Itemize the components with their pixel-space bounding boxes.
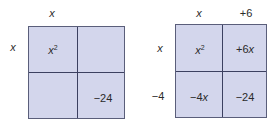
right-cell-top-left: x2 xyxy=(195,42,204,56)
left-cell-bottom-right: −24 xyxy=(94,92,113,104)
right-grid-horizontal-divider xyxy=(176,71,266,72)
left-top-label-x: x xyxy=(49,7,55,19)
right-cell-top-right-coef: +6 xyxy=(236,43,249,55)
right-cell-top-right: +6x xyxy=(236,43,254,55)
right-side-label-x: x xyxy=(157,42,163,54)
right-side-label-minus-4: −4 xyxy=(152,90,165,102)
right-cell-bottom-left-var: x xyxy=(203,91,209,103)
left-cell-top-left: x2 xyxy=(48,42,57,56)
left-grid-horizontal-divider xyxy=(29,72,124,73)
right-top-label-plus-6: +6 xyxy=(240,7,253,19)
right-area-grid: x2 +6x −4x −24 xyxy=(175,24,267,118)
left-side-label-x: x xyxy=(10,41,16,53)
right-cell-bottom-left-coef: −4 xyxy=(190,91,203,103)
left-cell-top-left-exponent: 2 xyxy=(54,44,58,51)
right-top-label-x: x xyxy=(196,7,202,19)
right-cell-top-left-exponent: 2 xyxy=(201,44,205,51)
right-cell-bottom-left: −4x xyxy=(190,91,208,103)
right-cell-bottom-right: −24 xyxy=(236,91,255,103)
left-area-grid: x2 −24 xyxy=(28,26,125,119)
right-cell-top-right-var: x xyxy=(249,43,255,55)
